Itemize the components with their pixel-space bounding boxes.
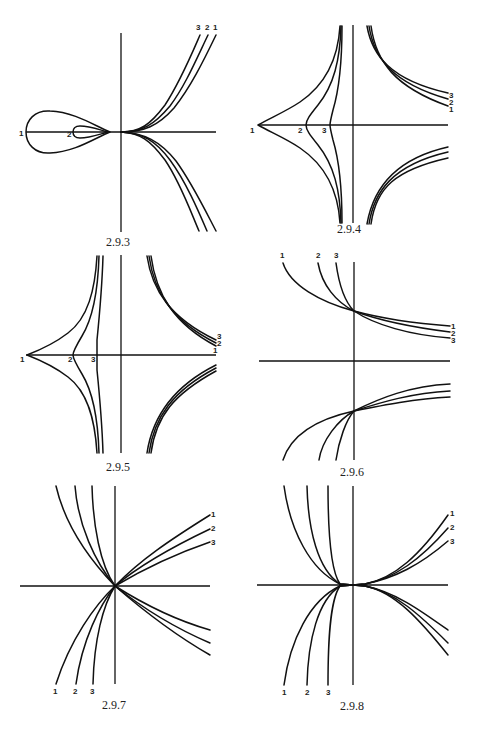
curve-label: 3 [196, 23, 201, 32]
curve-label: 2 [68, 355, 73, 364]
curve-3-lower [336, 397, 450, 460]
curve-3-upper-right [115, 542, 210, 586]
curve-3-upper [336, 263, 450, 338]
figure-2-9-5: 3 2 1 1 2 3 2.9.5 [20, 255, 222, 474]
curve-1-upper-left [284, 486, 353, 585]
curve-label: 1 [280, 251, 285, 260]
figure-caption: 2.9.3 [106, 235, 130, 249]
curve-2-lower [121, 132, 207, 231]
curve-label: 2 [316, 251, 321, 260]
curve-label: 1 [213, 23, 218, 32]
curve-3-upper-right [151, 256, 216, 346]
figure-2-9-8: 1 2 3 1 2 3 2.9.8 [257, 486, 455, 713]
curve-3-lower-right [367, 147, 448, 224]
curve-label: 1 [20, 355, 25, 364]
figure-caption: 2.9.8 [340, 699, 364, 713]
curve-3-lower-right [151, 371, 216, 453]
curve-label: 3 [211, 538, 216, 547]
figure-page: 3 2 1 1 2 2.9.3 3 2 1 1 2 3 2.9.4 [0, 0, 486, 735]
curve-3-lower-left [328, 585, 353, 685]
curve-label: 3 [334, 251, 339, 260]
curve-label: 2 [298, 126, 303, 135]
curve-3-upper-left [328, 486, 353, 585]
curve-1-upper [283, 263, 450, 326]
figure-2-9-3: 3 2 1 1 2 2.9.3 [19, 23, 218, 249]
curve-2-upper-right [353, 528, 448, 585]
figure-caption: 2.9.5 [106, 460, 130, 474]
curve-label: 1 [211, 510, 216, 519]
curve-label: 2 [205, 23, 210, 32]
curve-label: 3 [450, 537, 455, 546]
curve-label: 2 [211, 524, 216, 533]
curve-1-lower [121, 132, 216, 231]
curve-3-upper [121, 35, 200, 132]
curve-label: 3 [326, 688, 331, 697]
curve-label: 1 [449, 105, 454, 114]
curve-2-lower-right [149, 368, 216, 453]
figure-caption: 2.9.7 [102, 698, 126, 712]
curve-1-lower-left [284, 585, 353, 685]
curve-label: 1 [282, 688, 287, 697]
curve-2-lower-right [353, 585, 448, 643]
curve-label: 1 [213, 346, 218, 355]
curve-label: 2 [73, 687, 78, 696]
curve-2-lower-left [76, 586, 115, 684]
curve-1-upper-right [371, 26, 448, 106]
curve-1-lower-right [353, 585, 448, 630]
curve-2-upper-right [149, 256, 216, 343]
figure-2-9-7: 1 2 3 1 2 3 2.9.7 [20, 486, 216, 712]
curve-1-lower-right [147, 365, 216, 453]
curve-3-lower [121, 132, 199, 231]
curve-2-upper-right [369, 26, 448, 99]
curve-1-lower [283, 384, 450, 460]
curve-1-lower-left [56, 586, 115, 684]
curve-1-upper-right [353, 515, 448, 585]
curve-label: 1 [53, 687, 58, 696]
curve-label: 3 [90, 687, 95, 696]
curve-label: 2 [305, 688, 310, 697]
curve-1-lower-right [371, 158, 448, 224]
curve-label: 3 [451, 336, 456, 345]
curve-3-upper-right [353, 541, 448, 585]
curve-label: 2 [450, 523, 455, 532]
curve-label: 1 [19, 129, 24, 138]
figure-2-9-4: 3 2 1 1 2 3 2.9.4 [250, 25, 454, 236]
curve-2-upper-left [75, 486, 115, 586]
curve-label: 3 [322, 126, 327, 135]
curve-label: 3 [91, 355, 96, 364]
curve-label: 1 [450, 509, 455, 518]
figure-caption: 2.9.4 [337, 222, 361, 236]
figure-caption: 2.9.6 [340, 465, 364, 479]
figure-2-9-6: 1 2 3 1 2 3 2.9.6 [259, 251, 456, 479]
curve-label: 2 [67, 130, 72, 139]
curve-label: 1 [250, 126, 255, 135]
curve-label: 2 [217, 339, 222, 348]
curve-1-upper-right [147, 256, 216, 340]
